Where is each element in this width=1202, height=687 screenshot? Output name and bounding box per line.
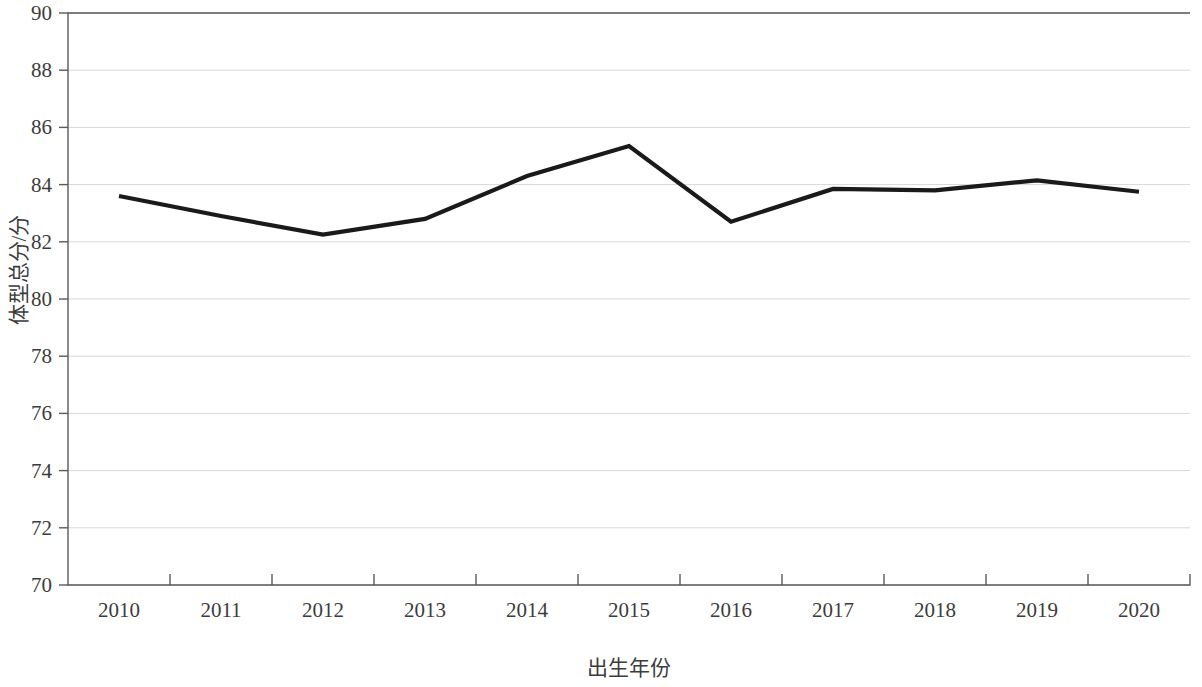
- x-tick-label: 2011: [200, 598, 241, 622]
- y-tick-label: 88: [31, 58, 52, 82]
- line-chart: 7072747678808284868890 20102011201220132…: [0, 0, 1202, 687]
- x-tick-label: 2013: [404, 598, 446, 622]
- x-tick-label: 2015: [608, 598, 650, 622]
- y-axis-title: 体型总分/分: [7, 215, 31, 326]
- y-tick-label: 72: [31, 516, 52, 540]
- y-tick-label: 70: [31, 573, 52, 597]
- y-tick-label: 90: [31, 1, 52, 25]
- y-tick-label: 84: [31, 173, 53, 197]
- x-tick-label: 2019: [1016, 598, 1058, 622]
- x-tick-label: 2016: [710, 598, 752, 622]
- y-tick-label: 76: [31, 401, 52, 425]
- x-tick-label: 2020: [1118, 598, 1160, 622]
- y-tick-label: 78: [31, 344, 52, 368]
- x-tick-label: 2018: [914, 598, 956, 622]
- x-tick-label: 2017: [812, 598, 854, 622]
- x-axis-title: 出生年份: [587, 656, 671, 680]
- y-tick-label: 82: [31, 230, 52, 254]
- chart-canvas: 7072747678808284868890 20102011201220132…: [0, 0, 1202, 687]
- y-tick-label: 80: [31, 287, 52, 311]
- x-tick-label: 2012: [302, 598, 344, 622]
- x-tick-label: 2014: [506, 598, 549, 622]
- x-tick-label: 2010: [98, 598, 140, 622]
- y-tick-label: 74: [31, 459, 53, 483]
- y-tick-label: 86: [31, 115, 52, 139]
- chart-background: [0, 0, 1202, 687]
